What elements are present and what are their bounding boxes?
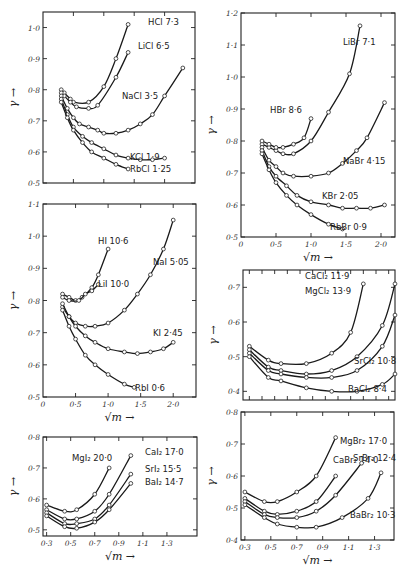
data-point: [181, 66, 185, 70]
data-point: [81, 134, 85, 138]
y-tick-label: 0·6: [28, 495, 40, 504]
data-point: [102, 147, 106, 151]
y-tick-label: 0·5: [28, 393, 40, 402]
curve-label-SrI2: SrI₂ 15·5: [145, 464, 181, 474]
data-point: [309, 139, 313, 143]
data-point: [281, 171, 285, 175]
data-point: [87, 100, 91, 104]
x-tick-label: 1·0: [102, 400, 114, 409]
curve-MgI2: [47, 468, 110, 512]
data-point: [83, 334, 87, 338]
data-point: [267, 142, 271, 146]
data-point: [67, 324, 71, 328]
data-point: [274, 174, 278, 178]
data-point: [304, 386, 308, 390]
y-axis-title: γ →: [7, 88, 20, 107]
data-point: [358, 24, 362, 28]
data-point: [365, 136, 369, 140]
data-point: [106, 373, 110, 377]
curve-label-BaCl2: BaCl₂ 8·4: [348, 384, 387, 394]
data-point: [267, 168, 271, 172]
curve-label-LiBr: LiBr 7·1: [343, 37, 376, 47]
data-point: [349, 331, 353, 335]
data-point: [126, 23, 130, 27]
data-point: [83, 353, 87, 357]
data-point: [63, 525, 67, 529]
x-tick-label: 0·7: [291, 543, 303, 552]
curve-HCl: [61, 24, 128, 103]
data-point: [292, 174, 296, 178]
y-tick-label: 1·0: [28, 232, 40, 241]
data-point: [266, 376, 270, 380]
curve-label-CaI2: CaI₂ 17·0: [145, 447, 184, 457]
data-point: [304, 362, 308, 366]
y-tick-label: 0·4: [228, 387, 240, 396]
data-point: [122, 350, 126, 354]
data-point: [96, 103, 100, 107]
data-point: [106, 347, 110, 351]
x-tick-label: 0·3: [239, 543, 251, 552]
x-tick-label: 0·7: [89, 539, 101, 548]
data-point: [327, 171, 331, 175]
data-point: [75, 508, 79, 512]
curve-label-SrBr2: SrBr₂ 12·4: [353, 453, 396, 463]
x-tick-label: 1·0: [305, 240, 317, 249]
x-axis-title: √m →: [104, 411, 134, 424]
y-tick-label: 0·8: [226, 408, 238, 417]
data-point: [366, 497, 370, 501]
y-tick-label: 0·9: [28, 55, 40, 64]
data-point: [281, 146, 285, 150]
data-point: [67, 315, 71, 319]
curve-label-NaI: NaI 5·05: [153, 257, 189, 267]
data-point: [114, 75, 118, 79]
data-point: [122, 382, 126, 386]
data-point: [380, 324, 384, 328]
chart-panel-bromides: 0·50·60·70·80·91·01·11·200·51·01·52·0√m …: [205, 9, 395, 264]
data-point: [279, 372, 283, 376]
plot-frame: [43, 204, 196, 397]
data-point: [309, 213, 313, 217]
data-point: [114, 131, 118, 135]
data-point: [334, 474, 338, 478]
data-point: [279, 379, 283, 383]
data-point: [67, 299, 71, 303]
data-point: [334, 493, 338, 497]
data-point: [309, 174, 313, 178]
data-point: [96, 128, 100, 132]
data-point: [74, 324, 78, 328]
data-point: [393, 282, 397, 286]
chart-panel-alkaline-earth-chlorides: 0·40·50·60·7γ →CaCl₂ 11·9MgCl₂ 13·9SrCl₂…: [207, 270, 397, 400]
data-point: [78, 122, 82, 126]
data-point: [267, 158, 271, 162]
data-point: [83, 324, 87, 328]
y-tick-label: 0·5: [228, 353, 240, 362]
x-tick-label: 1·1: [343, 543, 355, 552]
data-point: [304, 376, 308, 380]
x-tick-label: 1·3: [161, 539, 173, 548]
data-point: [309, 117, 313, 121]
data-point: [295, 203, 299, 207]
y-tick-label: 0·4: [226, 536, 238, 545]
data-point: [87, 106, 91, 110]
y-tick-label: 0·7: [28, 464, 40, 473]
x-tick-label: 0·5: [265, 543, 277, 552]
data-point: [314, 525, 318, 529]
data-point: [122, 308, 126, 312]
y-tick-label: 0·9: [226, 105, 238, 114]
x-tick-label: 0·5: [65, 539, 77, 548]
data-point: [163, 94, 167, 98]
curve-label-KBr: KBr 2·05: [322, 191, 359, 201]
data-point: [126, 128, 130, 132]
y-tick-label: 0·6: [28, 148, 40, 157]
y-tick-label: 0·6: [228, 318, 240, 327]
curve-label-BaBr2: BaBr₂ 10·3: [350, 510, 395, 520]
data-point: [327, 110, 331, 114]
y-tick-label: 0·6: [226, 201, 238, 210]
data-point: [45, 514, 49, 518]
data-point: [309, 200, 313, 204]
data-point: [102, 85, 106, 89]
x-axis-title: √m →: [105, 550, 135, 563]
x-tick-label: 0·5: [70, 400, 82, 409]
data-point: [274, 146, 278, 150]
x-tick-label: 0·3: [41, 539, 53, 548]
